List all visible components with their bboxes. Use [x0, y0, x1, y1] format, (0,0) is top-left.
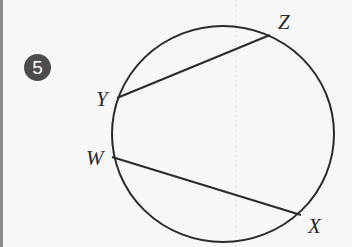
point-label-x: X	[308, 216, 321, 237]
circle-diagram	[0, 0, 352, 247]
circle	[112, 26, 334, 242]
chord-YZ	[117, 35, 270, 98]
point-label-z: Z	[278, 12, 290, 33]
point-label-w: W	[86, 148, 104, 169]
point-label-y: Y	[96, 89, 108, 110]
